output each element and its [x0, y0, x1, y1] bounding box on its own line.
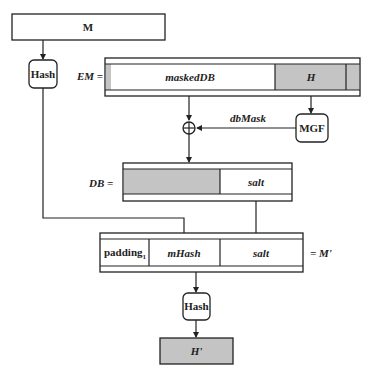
mgf-label: MGF: [299, 122, 325, 134]
hash-box-top: Hash: [29, 60, 57, 88]
em-block: maskedDB H: [105, 58, 360, 96]
hash-bottom-label: Hash: [184, 300, 208, 312]
hash-box-bottom: Hash: [183, 293, 210, 320]
em-label: EM =: [76, 70, 103, 82]
em-maskeddb-label: maskedDB: [165, 71, 215, 83]
message-label: M: [83, 21, 94, 33]
em-field-leading: [106, 64, 111, 90]
m-prime-block: padding1 mHash salt: [100, 233, 303, 272]
mprime-salt-label: salt: [252, 247, 270, 259]
db-block: salt: [123, 163, 292, 201]
db-salt-label: salt: [247, 176, 265, 188]
message-box: M: [12, 14, 165, 40]
em-field-trailer: [346, 64, 359, 90]
h-prime-box: H': [160, 338, 233, 364]
xor-icon: [183, 122, 195, 134]
dbmask-label: dbMask: [230, 112, 267, 124]
db-field-padding: [124, 169, 220, 194]
hash-top-label: Hash: [31, 68, 55, 80]
h-prime-label: H': [190, 345, 203, 357]
mhash-label: mHash: [167, 247, 200, 259]
em-h-label: H: [306, 71, 316, 83]
db-label: DB =: [88, 177, 113, 189]
mgf-box: MGF: [296, 114, 328, 142]
emsa-pss-diagram: M Hash EM = maskedDB H MGF dbMask: [0, 0, 368, 374]
m-prime-label: = M': [310, 247, 332, 259]
